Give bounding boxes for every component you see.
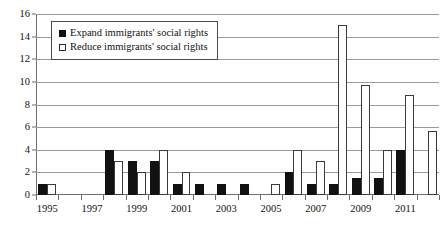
bar-expand-1995 [38,184,47,195]
bar-reduce-2009 [361,85,370,195]
bar-reduce-1998 [114,161,123,195]
x-axis-tick [394,195,395,200]
bar-expand-2001 [173,184,182,195]
x-axis-tick [148,195,149,200]
legend-item-label: Reduce immigrants' social rights [70,42,208,53]
y-axis-tick-label: 8 [25,99,30,110]
x-axis-tick [103,195,104,200]
bar-expand-2009 [352,178,361,195]
legend-item-reduce: Reduce immigrants' social rights [59,40,208,54]
bar-reduce-2001 [182,172,191,195]
bar-expand-1999 [128,161,137,195]
x-axis-tick [305,195,306,200]
x-axis: 199519971999200120032005200720092011 [36,195,439,235]
bar-expand-2010 [374,178,383,195]
filled-square-icon [59,30,66,37]
y-axis-tick-label: 10 [20,77,31,88]
bar-reduce-2008 [338,25,347,195]
bar-chart: 0246810121416 19951997199920012003200520… [0,0,447,244]
bar-reduce-2010 [383,150,392,195]
y-axis-tick-label: 4 [25,145,30,156]
x-axis-tick-label: 2011 [395,204,416,215]
bar-reduce-2012 [428,131,437,195]
hollow-square-icon [59,44,66,51]
x-axis-tick [170,195,171,200]
x-axis-tick-label: 2009 [350,204,371,215]
bar-reduce-1995 [47,184,56,195]
bar-expand-2000 [150,161,159,195]
bar-expand-2006 [285,172,294,195]
x-axis-tick [327,195,328,200]
bar-reduce-2000 [159,150,168,195]
bar-expand-2008 [329,184,338,195]
x-axis-tick [81,195,82,200]
x-axis-tick [36,195,37,200]
y-axis-tick-label: 16 [20,9,31,20]
x-axis-tick [238,195,239,200]
x-axis-tick-label: 1999 [126,204,147,215]
x-axis-tick [439,195,440,200]
legend-item-expand: Expand immigrants' social rights [59,26,208,40]
x-axis-tick [193,195,194,200]
bar-expand-2002 [195,184,204,195]
x-axis-tick [417,195,418,200]
bar-reduce-2007 [316,161,325,195]
y-axis-tick-label: 12 [20,54,31,65]
y-axis-tick-label: 14 [20,31,31,42]
bar-expand-1998 [105,150,114,195]
x-axis-tick-label: 2007 [305,204,326,215]
legend-item-label: Expand immigrants' social rights [70,28,208,39]
y-axis-tick-label: 6 [25,122,30,133]
y-axis-tick-label: 0 [25,190,30,201]
x-axis-tick-label: 1995 [37,204,58,215]
bar-expand-2011 [396,150,405,195]
x-axis-tick [372,195,373,200]
x-axis-tick [282,195,283,200]
x-axis-tick-label: 2001 [171,204,192,215]
x-axis-tick [58,195,59,200]
bar-reduce-2005 [271,184,280,195]
x-axis-tick-label: 2003 [216,204,237,215]
chart-legend: Expand immigrants' social rights Reduce … [51,21,218,60]
bar-reduce-2011 [405,95,414,195]
y-axis-tick-label: 2 [25,167,30,178]
x-axis-tick-label: 2005 [261,204,282,215]
x-axis-tick [349,195,350,200]
bar-reduce-2006 [293,150,302,195]
bar-expand-2003 [217,184,226,195]
x-axis-tick [215,195,216,200]
bar-reduce-1999 [137,172,146,195]
bar-expand-2007 [307,184,316,195]
bar-expand-2004 [240,184,249,195]
x-axis-tick [126,195,127,200]
x-axis-tick [260,195,261,200]
x-axis-tick-label: 1997 [81,204,102,215]
